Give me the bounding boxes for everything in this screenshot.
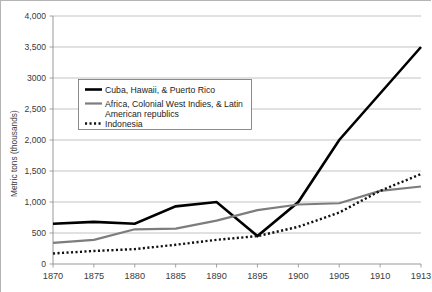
y-tick-label-3500: 3,500 <box>24 42 46 52</box>
y-tick-label-500: 500 <box>32 228 47 238</box>
x-tick-label-1875: 1875 <box>84 271 104 281</box>
y-tick-label-4000: 4,000 <box>24 11 46 21</box>
x-tick-label-1885: 1885 <box>165 271 185 281</box>
legend-label-indonesia: Indonesia <box>105 119 143 129</box>
x-tick-label-1870: 1870 <box>43 271 63 281</box>
x-tick-label-1900: 1900 <box>288 271 308 281</box>
y-tick-label-3000: 3000 <box>27 73 46 83</box>
y-tick-label-2500: 2,500 <box>24 104 46 114</box>
legend-label-africa-line1: Africa, Colonial West Indies, & Latin <box>105 99 243 109</box>
x-tick-label-1905: 1905 <box>329 271 349 281</box>
x-tick-label-1890: 1890 <box>206 271 226 281</box>
y-tick-label-1000: 1,000 <box>24 197 46 207</box>
chart-canvas: 05001,0001,5002,0002,50030003,5004,000 1… <box>1 1 432 292</box>
chart-legend: Cuba, Hawaii, & Puerto Rico Africa, Colo… <box>79 80 252 130</box>
legend-label-cuba-hawaii-puerto-rico: Cuba, Hawaii, & Puerto Rico <box>105 85 215 95</box>
y-tick-label-2000: 2,000 <box>24 135 46 145</box>
y-axis-title: Metric tons (thousands) <box>9 110 19 197</box>
chart-background <box>1 1 432 292</box>
y-tick-label-1500: 1,500 <box>24 166 46 176</box>
y-axis-title-text: Metric tons (thousands) <box>9 110 19 197</box>
x-tick-label-1880: 1880 <box>125 271 145 281</box>
x-tick-label-1910: 1910 <box>370 271 390 281</box>
x-tick-label-1895: 1895 <box>247 271 267 281</box>
y-tick-label-0: 0 <box>41 259 46 269</box>
x-tick-label-1913: 1913 <box>411 271 431 281</box>
